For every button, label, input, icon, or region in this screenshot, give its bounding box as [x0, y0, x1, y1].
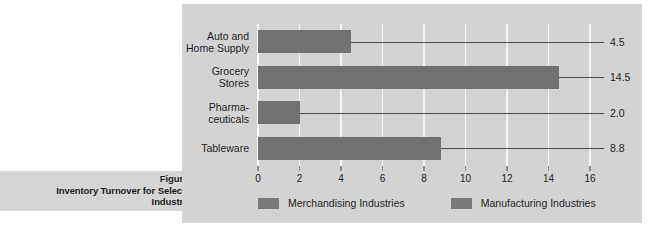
- x-tick-label: 8: [421, 173, 427, 184]
- legend-swatch: [258, 198, 279, 209]
- category-label-line: Grocery: [212, 65, 249, 77]
- bar[interactable]: [258, 30, 351, 53]
- bar-row: Auto andHome Supply4.5: [258, 30, 590, 53]
- legend-item[interactable]: Manufacturing Industries: [451, 197, 596, 209]
- x-tick-label: 4: [338, 173, 344, 184]
- tick-mark: [589, 166, 591, 171]
- legend-item[interactable]: Merchandising Industries: [258, 197, 405, 209]
- category-label-line: Auto and: [186, 30, 249, 42]
- figure-title-line-2: Industries: [0, 196, 196, 208]
- x-tick-label: 14: [543, 173, 554, 184]
- tick-mark: [382, 166, 384, 171]
- tick-mark: [299, 166, 301, 171]
- tick-mark: [506, 166, 508, 171]
- bar-value-label: 2.0: [610, 107, 625, 119]
- category-label: GroceryStores: [212, 65, 249, 89]
- category-label: Auto andHome Supply: [186, 30, 249, 54]
- x-tick-label: 10: [460, 173, 471, 184]
- bar-value-label: 14.5: [610, 71, 630, 83]
- x-tick-label: 6: [380, 173, 386, 184]
- category-label-line: Stores: [212, 77, 249, 89]
- bar[interactable]: [258, 137, 441, 160]
- bar-value-label: 8.8: [610, 142, 625, 154]
- tick-mark: [257, 166, 259, 171]
- x-tick-label: 0: [255, 173, 261, 184]
- bar-row: Tableware8.8: [258, 137, 590, 160]
- bar-row: Pharma-ceuticals2.0: [258, 101, 590, 124]
- x-tick-label: 16: [584, 173, 595, 184]
- chart-legend: Merchandising IndustriesManufacturing In…: [258, 197, 596, 209]
- value-leader-line: [300, 113, 605, 114]
- bar-row: GroceryStores14.5: [258, 66, 590, 89]
- tick-mark: [423, 166, 425, 171]
- x-tick-label: 12: [501, 173, 512, 184]
- value-leader-line: [351, 42, 604, 43]
- value-leader-line: [441, 148, 604, 149]
- bar-value-label: 4.5: [610, 36, 625, 48]
- plot-area: 0246810121416 Auto andHome Supply4.5Groc…: [258, 24, 590, 166]
- tick-mark: [548, 166, 550, 171]
- legend-swatch: [451, 198, 472, 209]
- figure-number: Figure 2: [0, 173, 196, 185]
- x-tick-label: 2: [297, 173, 303, 184]
- category-label-line: Tableware: [201, 142, 249, 154]
- tick-mark: [340, 166, 342, 171]
- category-label: Tableware: [201, 142, 249, 154]
- legend-label: Manufacturing Industries: [481, 197, 596, 209]
- figure-caption: Figure 2 Inventory Turnover for Selected…: [0, 173, 196, 208]
- value-leader-line: [559, 77, 604, 78]
- legend-label: Merchandising Industries: [288, 197, 405, 209]
- bar[interactable]: [258, 101, 300, 124]
- chart-panel: 0246810121416 Auto andHome Supply4.5Groc…: [182, 4, 642, 223]
- bar[interactable]: [258, 66, 559, 89]
- category-label-line: Pharma-: [208, 101, 249, 113]
- category-label-line: ceuticals: [208, 113, 249, 125]
- figure-title-line-1: Inventory Turnover for Selected: [0, 185, 196, 197]
- category-label-line: Home Supply: [186, 42, 249, 54]
- tick-mark: [465, 166, 467, 171]
- category-label: Pharma-ceuticals: [208, 101, 249, 125]
